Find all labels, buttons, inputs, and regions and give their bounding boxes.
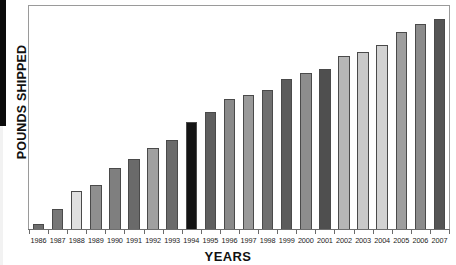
year-label-1999: 1999 — [277, 236, 296, 245]
year-label-1998: 1998 — [258, 236, 277, 245]
tick-1987 — [48, 230, 49, 234]
tick-2000 — [296, 230, 297, 234]
tick-2004 — [373, 230, 374, 234]
tick-1986 — [29, 230, 30, 234]
bar-2002 — [338, 56, 350, 230]
bar-2007 — [434, 19, 446, 230]
bar-2005 — [396, 32, 408, 230]
bar-2004 — [376, 45, 388, 230]
tick-2002 — [334, 230, 335, 234]
bar-1997 — [243, 95, 255, 230]
scan-edge-artifact — [0, 0, 6, 126]
bar-1999 — [281, 79, 293, 230]
bar-1994 — [186, 122, 198, 230]
bar-2003 — [357, 52, 369, 230]
tick-1998 — [258, 230, 259, 234]
year-label-1988: 1988 — [67, 236, 86, 245]
year-label-1997: 1997 — [239, 236, 258, 245]
tick-1993 — [163, 230, 164, 234]
bar-1989 — [90, 185, 102, 230]
tick-2003 — [354, 230, 355, 234]
tick-1996 — [220, 230, 221, 234]
year-label-2005: 2005 — [392, 236, 411, 245]
year-label-1986: 1986 — [29, 236, 48, 245]
tick-2007 — [430, 230, 431, 234]
bar-1990 — [109, 168, 121, 230]
year-label-1991: 1991 — [124, 236, 143, 245]
year-label-2002: 2002 — [334, 236, 353, 245]
year-label-2003: 2003 — [354, 236, 373, 245]
bar-1993 — [166, 140, 178, 230]
year-label-2000: 2000 — [296, 236, 315, 245]
bar-series — [29, 6, 449, 230]
tick-1991 — [124, 230, 125, 234]
year-label-2007: 2007 — [430, 236, 449, 245]
tick-1995 — [201, 230, 202, 234]
x-axis-title: YEARS — [0, 249, 456, 264]
tick-1990 — [105, 230, 106, 234]
year-label-1996: 1996 — [220, 236, 239, 245]
year-label-2006: 2006 — [411, 236, 430, 245]
bar-2006 — [415, 24, 427, 230]
scan-edge-artifact-lower — [0, 126, 3, 265]
bar-1996 — [224, 99, 236, 230]
bar-1992 — [147, 148, 159, 230]
year-label-1992: 1992 — [144, 236, 163, 245]
bar-1988 — [71, 191, 83, 230]
bar-1991 — [128, 159, 140, 230]
year-label-2004: 2004 — [373, 236, 392, 245]
chart-screenshot: POUNDS SHIPPED 1986198719881989199019911… — [0, 0, 456, 265]
bar-2000 — [300, 73, 312, 230]
tick-1989 — [86, 230, 87, 234]
bar-1987 — [52, 209, 64, 231]
year-label-1995: 1995 — [201, 236, 220, 245]
bar-1995 — [205, 112, 217, 230]
tick-1999 — [277, 230, 278, 234]
year-label-1994: 1994 — [182, 236, 201, 245]
year-label-1993: 1993 — [163, 236, 182, 245]
x-axis-tick-labels: 1986198719881989199019911992199319941995… — [28, 236, 450, 248]
bar-1998 — [262, 90, 274, 230]
year-label-2001: 2001 — [315, 236, 334, 245]
tick-2006 — [411, 230, 412, 234]
x-axis-ticks — [28, 230, 450, 235]
year-label-1990: 1990 — [105, 236, 124, 245]
tick-1988 — [67, 230, 68, 234]
tick-2001 — [315, 230, 316, 234]
year-label-1987: 1987 — [48, 236, 67, 245]
bar-2001 — [319, 69, 331, 230]
tick-end — [449, 230, 450, 234]
y-axis-title: POUNDS SHIPPED — [15, 32, 29, 172]
tick-1992 — [144, 230, 145, 234]
year-label-1989: 1989 — [86, 236, 105, 245]
tick-2005 — [392, 230, 393, 234]
tick-1994 — [182, 230, 183, 234]
tick-1997 — [239, 230, 240, 234]
